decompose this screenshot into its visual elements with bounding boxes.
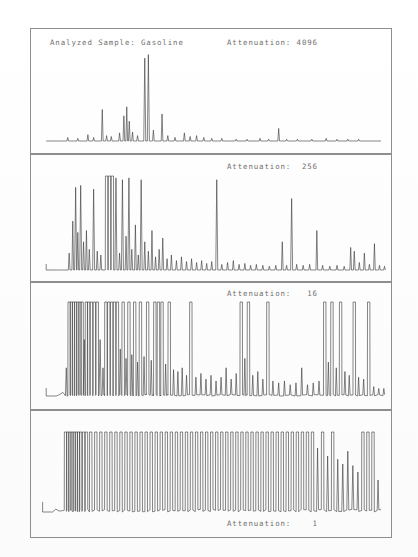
trace-attenuation-16 [31, 282, 391, 410]
attenuation-label-1: Attenuation: 1 [227, 519, 318, 528]
chromatogram-panel-2: Attenuation: 256 [31, 153, 391, 281]
chromatogram-panel-4: Attenuation: 1 [31, 409, 391, 537]
panel-divider [31, 410, 391, 411]
sample-label: Analyzed Sample: Gasoline [50, 38, 184, 47]
attenuation-label-4096: Attenuation: 4096 [227, 38, 318, 47]
trace-attenuation-256 [31, 154, 391, 282]
attenuation-label-16: Attenuation: 16 [227, 289, 318, 298]
trace-attenuation-4096 [31, 29, 391, 153]
attenuation-label-256: Attenuation: 256 [227, 162, 318, 171]
chromatogram-panel-1: Analyzed Sample: Gasoline Attenuation: 4… [31, 29, 391, 153]
panel-divider [31, 154, 391, 155]
chromatogram-frame: Analyzed Sample: Gasoline Attenuation: 4… [30, 28, 392, 538]
chromatogram-panel-3: Attenuation: 16 [31, 281, 391, 409]
panel-divider [31, 282, 391, 283]
trace-attenuation-1 [31, 410, 391, 538]
